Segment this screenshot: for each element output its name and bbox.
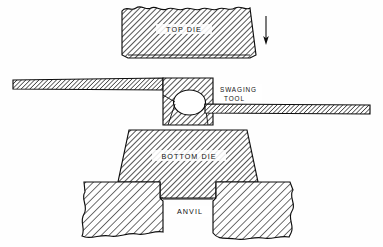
swaging-tool-body xyxy=(163,78,213,125)
anvil-label: ANVIL xyxy=(177,207,203,216)
swaging-tool-left-bar xyxy=(13,78,163,90)
swaging-tool-label-group: SWAGING TOOL xyxy=(218,84,262,103)
anvil-left-body xyxy=(82,182,163,237)
top-die-label: TOP DIE xyxy=(166,25,202,34)
swaging-operation-diagram: TOP DIE xyxy=(0,0,383,247)
figure-root: TOP DIE xyxy=(0,0,383,247)
swaging-tool-label-line2: TOOL xyxy=(224,95,245,102)
bottom-die-label: BOTTOM DIE xyxy=(161,152,216,161)
swaging-tool-label-line1: SWAGING xyxy=(220,86,257,93)
anvil-right-body xyxy=(213,182,294,239)
swaging-tool-right-bar xyxy=(205,104,370,114)
top-die: TOP DIE xyxy=(122,7,256,58)
swaging-tool-right-bar-body xyxy=(205,104,370,114)
